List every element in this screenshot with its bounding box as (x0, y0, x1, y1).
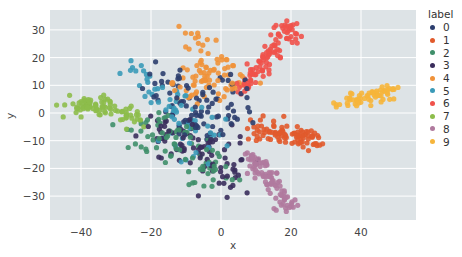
legend-item-2: 2 (430, 46, 453, 59)
x-axis-label: x (230, 239, 236, 251)
y-tick-label: 30 (32, 24, 45, 36)
x-tick-label: 0 (218, 226, 225, 238)
legend-item-0: 0 (430, 21, 453, 34)
legend-label: 4 (443, 72, 450, 84)
legend-item-9: 9 (430, 135, 453, 148)
legend-label: 1 (443, 34, 450, 46)
y-tick-label: −20 (23, 162, 45, 174)
y-tick-label: 20 (32, 52, 45, 64)
legend-marker-icon (430, 38, 435, 43)
legend-item-8: 8 (430, 123, 453, 136)
legend-marker-icon (430, 63, 435, 68)
x-tick-label: −40 (70, 226, 92, 238)
legend-item-3: 3 (430, 59, 453, 72)
legend-label: 6 (443, 97, 450, 109)
x-tick-label: −20 (140, 226, 162, 238)
legend-label: 3 (443, 59, 450, 71)
legend-marker-icon (430, 25, 435, 30)
legend-item-5: 5 (430, 84, 453, 97)
legend-marker-icon (430, 139, 435, 144)
legend-label: 7 (443, 110, 450, 122)
x-axis-ticks: −40−2002040 (70, 226, 368, 238)
legend-marker-icon (430, 50, 435, 55)
scatter-chart: −40−2002040 3020100−10−20−30 x y (0, 0, 462, 257)
y-tick-label: −30 (23, 190, 45, 202)
legend-label: 8 (443, 123, 450, 135)
legend-label: 0 (443, 21, 450, 33)
y-tick-label: 10 (32, 79, 45, 91)
y-tick-label: 0 (38, 107, 45, 119)
x-tick-label: 40 (354, 226, 367, 238)
legend-label: 9 (443, 136, 450, 148)
legend-item-7: 7 (430, 110, 453, 123)
legend-marker-icon (430, 101, 435, 106)
legend-marker-icon (430, 114, 435, 119)
y-tick-label: −10 (23, 135, 45, 147)
legend-label: 5 (443, 85, 450, 97)
legend-label: 2 (443, 47, 450, 59)
legend-item-4: 4 (430, 72, 453, 85)
legend-marker-icon (430, 88, 435, 93)
legend: label 0123456789 (420, 8, 453, 148)
legend-marker-icon (430, 126, 435, 131)
y-axis-ticks: 3020100−10−20−30 (23, 24, 45, 202)
x-tick-label: 20 (284, 226, 297, 238)
legend-item-6: 6 (430, 97, 453, 110)
legend-title: label (428, 8, 453, 20)
legend-marker-icon (430, 76, 435, 81)
legend-item-1: 1 (430, 34, 453, 47)
y-axis-label: y (4, 113, 16, 119)
